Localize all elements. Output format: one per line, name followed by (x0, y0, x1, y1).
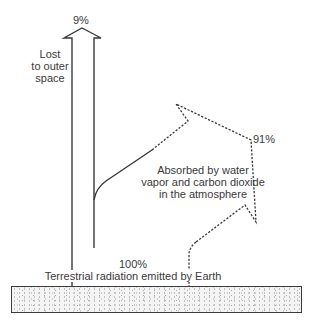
lost-line-3: space (30, 72, 70, 84)
absorbed-line-1: Absorbed by water (138, 164, 268, 176)
emitted-percent: 100% (38, 258, 228, 270)
absorbed-line-3: in the atmosphere (138, 188, 268, 200)
lost-line-2: to outer (30, 60, 70, 72)
lost-to-space-label: Lost to outer space (30, 48, 70, 84)
absorbed-line-2: vapor and carbon dioxide (138, 176, 268, 188)
emitted-caption: Terrestrial radiation emitted by Earth (44, 270, 223, 282)
lost-percent-label: 9% (73, 14, 89, 26)
absorbed-label: Absorbed by water vapor and carbon dioxi… (138, 164, 268, 200)
lost-line-1: Lost (30, 48, 70, 60)
absorbed-percent-label: 91% (253, 133, 275, 145)
earth-surface (11, 286, 302, 313)
emitted-label: 100% Terrestrial radiation emitted by Ea… (38, 258, 228, 282)
